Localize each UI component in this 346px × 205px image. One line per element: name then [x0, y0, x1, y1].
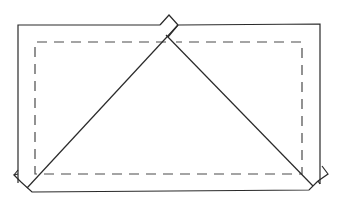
left-diagonal-crease	[27, 25, 178, 188]
outer-left-and-top-edge	[18, 25, 160, 183]
diagram-svg	[0, 0, 346, 205]
outer-bottom-edge	[21, 181, 318, 192]
outer-top-right-and-right-edge	[178, 24, 320, 184]
right-diagonal-crease	[166, 35, 313, 186]
fold-diagram	[0, 0, 346, 205]
top-peak-flap	[160, 15, 178, 25]
inner-dashed-fold-line	[35, 42, 302, 174]
